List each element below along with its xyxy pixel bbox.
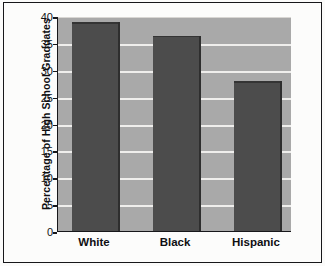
- y-tick-mark: [53, 232, 57, 234]
- x-tick-label-black: Black: [138, 236, 212, 248]
- y-tick-label: 15: [23, 146, 53, 157]
- x-tick-label-hispanic: Hispanic: [219, 236, 293, 248]
- y-tick-label: 30: [23, 66, 53, 77]
- plot-area: [57, 17, 291, 232]
- bar-top-edge: [234, 81, 280, 83]
- bar-hispanic[interactable]: [234, 81, 280, 231]
- x-axis-ticks: White Black Hispanic: [57, 236, 291, 254]
- bar-top-edge: [153, 36, 199, 38]
- chart-screenshot: Percentage of High School Graduates 40 3…: [0, 0, 325, 266]
- x-tick-label-white: White: [57, 236, 131, 248]
- y-tick-label: 5: [23, 200, 53, 211]
- bar-chart: Percentage of High School Graduates 40 3…: [0, 0, 325, 266]
- bar-top-edge: [72, 22, 118, 24]
- y-tick-label: 25: [23, 93, 53, 104]
- y-tick-label: 40: [23, 12, 53, 23]
- y-tick-label: 10: [23, 173, 53, 184]
- y-tick-label: 0: [23, 227, 53, 238]
- y-axis-title-holder: Percentage of High School Graduates: [18, 0, 19, 266]
- y-tick-label: 20: [23, 120, 53, 131]
- y-axis-ticks: 40 35 30 25 20 15 10 5 0: [20, 17, 53, 232]
- bar-black[interactable]: [153, 36, 199, 231]
- bar-white[interactable]: [72, 22, 118, 231]
- y-tick-label: 35: [23, 39, 53, 50]
- gridline-40: [58, 17, 291, 18]
